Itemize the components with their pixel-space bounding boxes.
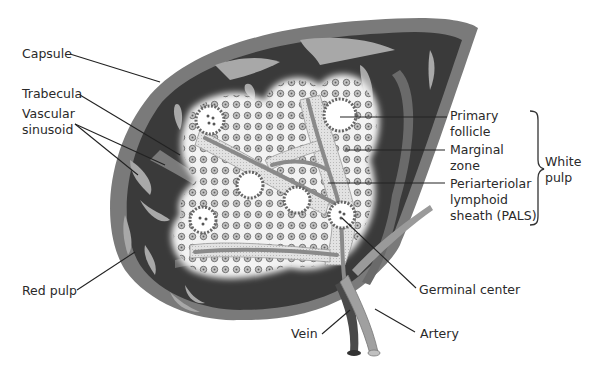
label-artery: Artery	[420, 326, 459, 341]
label-pals-line2: lymphoid	[450, 192, 508, 207]
label-primary-follicle-line2: follicle	[450, 124, 491, 139]
label-vascular-sinusoid-line2: sinusoid	[22, 122, 73, 137]
label-marginal-zone-line2: zone	[450, 158, 480, 173]
label-marginal-zone-line1: Marginal	[450, 142, 504, 157]
label-white-pulp-line1: White	[545, 154, 581, 169]
label-germinal-center: Germinal center	[419, 282, 520, 297]
label-vascular-sinusoid-line1: Vascular	[22, 106, 75, 121]
germinal-center	[329, 202, 355, 228]
label-primary-follicle-line1: Primary	[450, 108, 498, 123]
label-white-pulp-line2: pulp	[545, 170, 572, 185]
label-pals-line1: Periarteriolar	[450, 176, 531, 191]
primary-follicle	[324, 99, 356, 131]
spleen-diagram: Capsule Trabecula Vascular sinusoid Red …	[0, 0, 599, 367]
label-pals-line3: sheath (PALS)	[450, 208, 537, 223]
label-vein: Vein	[291, 326, 318, 341]
label-capsule: Capsule	[22, 46, 72, 61]
label-red-pulp: Red pulp	[22, 283, 77, 298]
label-trabecula: Trabecula	[22, 86, 82, 101]
